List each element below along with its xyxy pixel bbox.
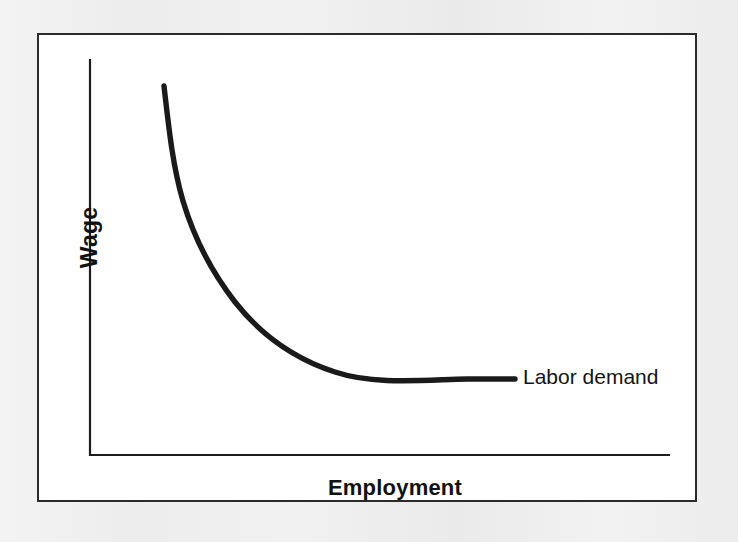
plot-area: Wage Employment Labor demand xyxy=(39,35,695,500)
y-axis-title: Wage xyxy=(76,178,103,298)
figure-frame: Wage Employment Labor demand xyxy=(37,33,697,502)
labor-demand-label: Labor demand xyxy=(523,365,658,389)
x-axis-title: Employment xyxy=(39,475,699,501)
chart-canvas xyxy=(39,35,695,500)
labor-demand-curve xyxy=(164,86,515,381)
